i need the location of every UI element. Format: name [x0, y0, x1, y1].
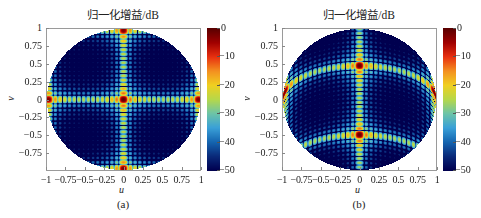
colorbar-tick-mark — [453, 113, 456, 114]
x-tick-mark — [398, 167, 399, 170]
x-tick-mark — [340, 167, 341, 170]
y-tick-mark — [46, 82, 49, 83]
y-tick-mark — [282, 117, 285, 118]
x-tick-mark — [437, 167, 438, 170]
subfigure-caption: (a) — [108, 198, 138, 210]
colorbar-tick-label: 0 — [221, 23, 226, 33]
y-tick-mark — [46, 117, 49, 118]
beam-pattern-heatmap — [283, 29, 436, 170]
y-tick-label: 0.5 — [244, 59, 278, 69]
colorbar-tick-mark — [453, 56, 456, 57]
y-tick-label: 1 — [8, 23, 42, 33]
y-tick-mark — [282, 100, 285, 101]
colorbar-tick-label: −20 — [455, 80, 471, 90]
y-tick-mark — [282, 82, 285, 83]
y-tick-label: 0.75 — [244, 41, 278, 51]
x-axis-label: u — [355, 184, 360, 195]
colorbar-tick-label: −50 — [455, 165, 471, 175]
y-tick-mark — [46, 64, 49, 65]
y-tick-label: 0 — [244, 95, 278, 105]
y-tick-mark — [282, 28, 285, 29]
x-tick-mark — [379, 167, 380, 170]
x-tick-mark — [124, 167, 125, 170]
chart-title: 归一化增益/dB — [314, 6, 404, 22]
panel-b: 归一化增益/dB v u (b) 10.750.50.250−0.25−0.5−… — [236, 0, 476, 218]
colorbar-tick-label: −50 — [219, 165, 235, 175]
y-tick-label: 0 — [8, 95, 42, 105]
x-tick-mark — [418, 167, 419, 170]
y-tick-mark — [282, 153, 285, 154]
x-tick-label: 1 — [186, 175, 216, 185]
y-tick-mark — [46, 135, 49, 136]
y-tick-mark — [46, 100, 49, 101]
x-tick-mark — [65, 167, 66, 170]
colorbar-tick-label: −20 — [219, 80, 235, 90]
beam-pattern-heatmap — [47, 29, 200, 170]
y-tick-label: −0.25 — [244, 112, 278, 122]
x-tick-mark — [85, 167, 86, 170]
y-tick-label: 1 — [244, 23, 278, 33]
subfigure-caption: (b) — [344, 198, 374, 210]
colorbar-tick-mark — [453, 142, 456, 143]
x-tick-mark — [301, 167, 302, 170]
colorbar-tick-mark — [453, 85, 456, 86]
colorbar-tick-mark — [217, 56, 220, 57]
y-tick-label: 0.25 — [8, 77, 42, 87]
colorbar-tick-mark — [217, 85, 220, 86]
x-tick-mark — [360, 167, 361, 170]
y-tick-mark — [282, 64, 285, 65]
y-tick-label: −0.75 — [8, 148, 42, 158]
x-axis-label: u — [119, 184, 124, 195]
plot-area — [282, 28, 437, 171]
colorbar-tick-label: −40 — [219, 137, 235, 147]
colorbar-tick-mark — [453, 28, 456, 29]
y-tick-label: 0.5 — [8, 59, 42, 69]
y-tick-label: −0.5 — [244, 130, 278, 140]
y-tick-mark — [46, 28, 49, 29]
x-tick-mark — [182, 167, 183, 170]
panel-a: 归一化增益/dB v u (a) 10.750.50.250−0.25−0.5−… — [0, 0, 240, 218]
colorbar-tick-mark — [217, 170, 220, 171]
x-tick-mark — [321, 167, 322, 170]
x-tick-mark — [201, 167, 202, 170]
y-tick-label: −0.5 — [8, 130, 42, 140]
colorbar-tick-label: 0 — [457, 23, 462, 33]
colorbar-tick-label: −30 — [219, 108, 235, 118]
y-tick-label: 0.75 — [8, 41, 42, 51]
colorbar-tick-mark — [217, 28, 220, 29]
y-tick-label: 0.25 — [244, 77, 278, 87]
y-tick-label: −0.25 — [8, 112, 42, 122]
x-tick-mark — [46, 167, 47, 170]
x-tick-mark — [143, 167, 144, 170]
x-tick-label: 1 — [422, 175, 452, 185]
colorbar-tick-label: −30 — [455, 108, 471, 118]
colorbar-tick-mark — [217, 113, 220, 114]
y-tick-mark — [282, 46, 285, 47]
colorbar-tick-label: −10 — [455, 51, 471, 61]
plot-area — [46, 28, 201, 171]
y-tick-label: −0.75 — [244, 148, 278, 158]
y-tick-mark — [46, 46, 49, 47]
colorbar-tick-mark — [217, 142, 220, 143]
x-tick-mark — [162, 167, 163, 170]
y-tick-mark — [46, 153, 49, 154]
colorbar-tick-label: −10 — [219, 51, 235, 61]
colorbar-tick-mark — [453, 170, 456, 171]
x-tick-mark — [282, 167, 283, 170]
colorbar-tick-label: −40 — [455, 137, 471, 147]
x-tick-mark — [104, 167, 105, 170]
chart-title: 归一化增益/dB — [78, 6, 168, 22]
y-tick-mark — [282, 135, 285, 136]
